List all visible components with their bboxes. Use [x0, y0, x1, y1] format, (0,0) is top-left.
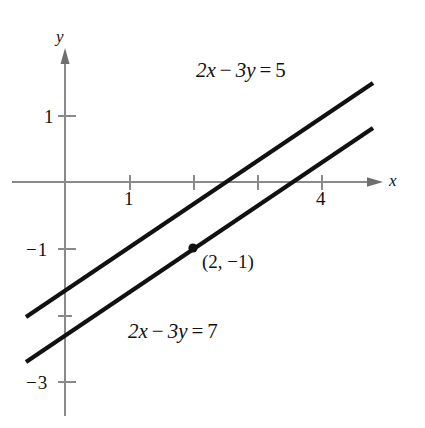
y-tick-label-neg3: −3 — [26, 373, 48, 392]
point-marker-2-neg1 — [188, 243, 197, 252]
equation-upper-coef-x: 2x — [196, 58, 216, 82]
equation-label-lower: 2x−3y=7 — [128, 321, 218, 342]
equation-lower-equals: = — [188, 319, 208, 343]
equation-upper-constant: 5 — [275, 58, 286, 82]
x-axis-arrowhead — [367, 177, 383, 187]
equation-lower-operator: − — [148, 319, 168, 343]
equation-label-upper: 2x−3y=5 — [196, 60, 286, 81]
x-tick-label-4: 4 — [316, 189, 326, 208]
x-axis-label: x — [389, 172, 397, 189]
equation-upper-equals: = — [256, 58, 276, 82]
equation-lower-coef-x: 2x — [128, 319, 148, 343]
y-tick-label-neg1: −1 — [26, 240, 48, 259]
equation-lower-coef-y: 3y — [168, 319, 188, 343]
y-tick-label-1: 1 — [44, 107, 54, 126]
coordinate-graph-figure: y x 1 4 1 −1 −3 2x−3y=5 2x−3y=7 (2, −1) — [0, 0, 425, 428]
y-axis-arrowhead — [61, 48, 70, 64]
equation-upper-coef-y: 3y — [236, 58, 256, 82]
equation-upper-operator: − — [216, 58, 236, 82]
equation-lower-constant: 7 — [207, 319, 218, 343]
x-tick-label-1: 1 — [124, 189, 134, 208]
point-coordinate-label: (2, −1) — [202, 252, 254, 271]
y-axis-label: y — [56, 28, 64, 45]
